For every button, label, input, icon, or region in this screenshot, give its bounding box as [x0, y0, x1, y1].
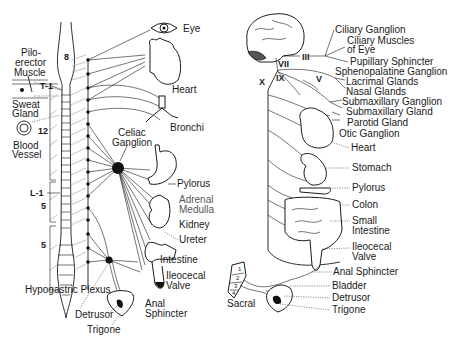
otic-ganglion-label: Otic Ganglion — [339, 128, 400, 139]
cervical-8-label: 8 — [64, 52, 69, 62]
para-heart-label: Heart — [351, 142, 376, 153]
cn-v-label: V — [316, 74, 322, 84]
submax-gland-label: Submaxillary Gland — [346, 106, 433, 117]
heart-icon — [149, 38, 180, 84]
stomach-icon — [148, 145, 176, 184]
sym-detrusor-label: Detrusor — [75, 309, 114, 320]
para-small-int-label-2: Intestine — [352, 225, 390, 236]
ciliary-muscles-label-2: of Eye — [347, 44, 376, 55]
sympathetic-division: 8 T-1 12 L-1 5 5 Pilo- erector Muscle Sw… — [12, 22, 214, 335]
blood-vessel-icon — [17, 121, 31, 135]
sacral-label: Sacral — [227, 298, 255, 309]
sym-pylorus-label: Pylorus — [177, 178, 210, 189]
pylorus-icon-para — [300, 188, 331, 194]
sym-anal-label-2: Sphincter — [145, 308, 188, 319]
spinal-cord — [50, 22, 86, 318]
thoracic-12-label: 12 — [38, 126, 48, 136]
cn-vii-label: VII — [278, 59, 289, 69]
para-ileocecal-label-2: Valve — [352, 251, 377, 262]
sympathetic-chain — [86, 58, 90, 290]
para-trigone-label: Trigone — [332, 304, 366, 315]
para-colon-label: Colon — [352, 199, 378, 210]
gland-label: Gland — [12, 108, 39, 119]
parotid-label: Parotid Gland — [347, 117, 408, 128]
cn-ix-label: IX — [276, 73, 285, 83]
celiac-label-2: Ganglion — [112, 137, 152, 148]
heart-label: Heart — [172, 84, 197, 95]
para-detrusor-label: Detrusor — [332, 292, 371, 303]
heart-icon-para — [300, 108, 333, 148]
hypogastric-plexus-label: Hypogastric Plexus — [25, 284, 111, 295]
para-anal-sphincter-label: Anal Sphincter — [333, 266, 399, 277]
cn-x-label: X — [259, 77, 265, 87]
bladder-icon-para — [267, 285, 293, 312]
para-pylorus-label: Pylorus — [352, 182, 385, 193]
parasympathetic-division: III VII X IX V Ciliary Ganglion Ciliary … — [227, 14, 447, 315]
l1-label: L-1 — [30, 188, 44, 198]
adrenal-label-2: Medulla — [179, 204, 214, 215]
sym-trigone-label: Trigone — [87, 324, 121, 335]
bronchi-icon — [146, 96, 178, 122]
vessel-label: Vessel — [12, 149, 41, 160]
cn-iii-label: III — [302, 52, 310, 62]
celiac-ganglion-node — [112, 162, 124, 174]
eye-icon — [151, 23, 177, 33]
bronchi-label: Bronchi — [170, 122, 204, 133]
muscle-label: Muscle — [14, 67, 46, 78]
eye-label: Eye — [183, 23, 201, 34]
hypogastric-plexus-node — [106, 257, 113, 264]
brain-icon — [247, 14, 304, 72]
sacrum-icon: 1 2 3 4 — [228, 262, 246, 298]
para-stomach-label: Stomach — [352, 162, 391, 173]
sym-intestine-label: Intestine — [160, 254, 198, 265]
ciliary-ganglion-label: Ciliary Ganglion — [335, 24, 406, 35]
colon-intestine-icon — [285, 197, 342, 270]
autonomic-nervous-system-diagram: 8 T-1 12 L-1 5 5 Pilo- erector Muscle Sw… — [0, 0, 453, 348]
lumbar-5-label: 5 — [41, 201, 46, 211]
para-bladder-label: Bladder — [332, 280, 367, 291]
kidney-label: Kidney — [179, 219, 210, 230]
sym-ileocecal-label-2: Valve — [166, 280, 191, 291]
kidney-icon — [149, 195, 170, 228]
sacral-5-label: 5 — [41, 240, 46, 250]
ureter-label: Ureter — [179, 234, 207, 245]
